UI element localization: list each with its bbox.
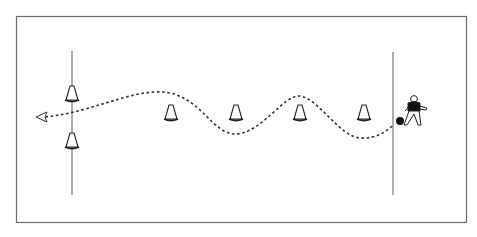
- ball-icon: [396, 117, 404, 125]
- drill-diagram: [0, 0, 477, 237]
